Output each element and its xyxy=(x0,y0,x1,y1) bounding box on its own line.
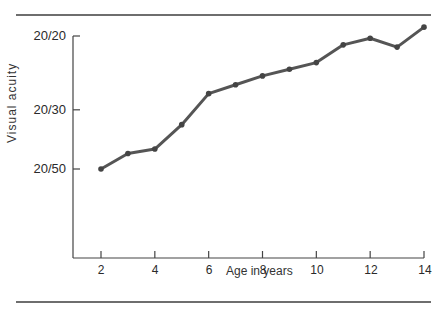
data-point-marker xyxy=(206,91,212,97)
series-line xyxy=(101,27,424,169)
x-tick-label-2: 2 xyxy=(91,263,111,277)
y-tick-label-20-50: 20/50 xyxy=(16,161,66,176)
y-tick-label-20-30: 20/30 xyxy=(16,102,66,117)
data-point-marker xyxy=(125,151,131,157)
axes xyxy=(73,36,424,258)
y-tick-label-20-20: 20/20 xyxy=(16,28,66,43)
x-tick-label-8: 8 xyxy=(253,263,273,277)
x-tick-label-4: 4 xyxy=(145,263,165,277)
data-point-marker xyxy=(421,24,427,30)
data-series xyxy=(98,24,427,171)
data-point-marker xyxy=(287,66,293,72)
x-tick-label-12: 12 xyxy=(361,263,381,277)
data-point-marker xyxy=(233,82,239,88)
data-point-marker xyxy=(260,73,266,79)
x-tick-label-10: 10 xyxy=(307,263,327,277)
data-point-marker xyxy=(98,166,104,172)
x-tick-label-6: 6 xyxy=(199,263,219,277)
data-point-marker xyxy=(367,35,373,41)
data-point-marker xyxy=(394,44,400,50)
x-tick-label-14: 14 xyxy=(415,263,435,277)
data-point-marker xyxy=(314,60,320,66)
data-point-marker xyxy=(152,146,158,152)
data-point-marker xyxy=(179,122,185,128)
data-point-marker xyxy=(340,42,346,48)
